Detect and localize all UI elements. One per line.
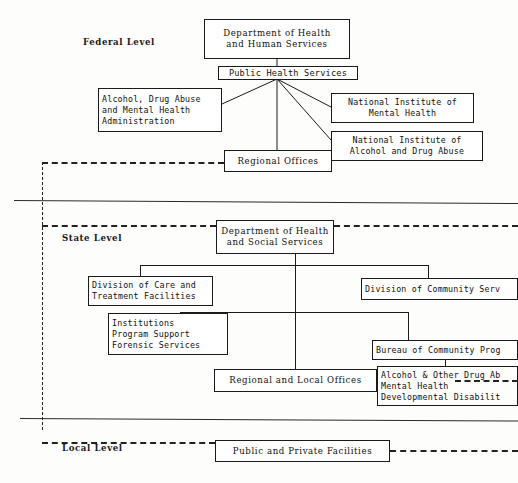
org-chart: Federal Level Department of Health and H… xyxy=(0,0,518,483)
node-public-private-line-1: Public and Private Facilities xyxy=(233,446,372,457)
level-label-federal: Federal Level xyxy=(83,37,155,47)
node-institutions-line-1: Institutions xyxy=(112,318,174,329)
local-dashed-line-right xyxy=(390,450,518,452)
node-adamha[interactable]: Alcohol, Drug Abuse and Mental Health Ad… xyxy=(98,88,222,132)
node-dhhs-line-1: Department of Health xyxy=(223,28,331,39)
left-spine-dashed-line xyxy=(42,162,43,430)
node-bureau-community-programs[interactable]: Bureau of Community Prog xyxy=(372,340,518,360)
node-dhss-line-1: Department of Health xyxy=(221,226,329,237)
node-institutions-line-3: Forensic Services xyxy=(112,340,200,351)
state-local-divider xyxy=(20,418,518,422)
node-programs-line-2: Mental Health xyxy=(381,381,449,392)
node-public-health-services[interactable]: Public Health Services xyxy=(218,66,358,80)
node-institutions-line-2: Program Support xyxy=(112,329,190,340)
node-institutions[interactable]: Institutions Program Support Forensic Se… xyxy=(108,313,228,355)
node-phs-line-1: Public Health Services xyxy=(229,68,347,79)
federal-state-divider xyxy=(14,200,518,204)
node-programs-line-1: Alcohol & Other Drug Ab xyxy=(381,370,501,381)
node-dhss-line-2: and Social Services xyxy=(227,237,324,248)
federal-regional-dashed-line xyxy=(42,162,224,164)
level-label-local: Local Level xyxy=(62,443,123,453)
edge-branch-bureau xyxy=(408,312,409,340)
node-niada-line-2: Alcohol and Drug Abuse xyxy=(350,146,464,157)
node-programs[interactable]: Alcohol & Other Drug Ab Mental Health De… xyxy=(377,366,518,406)
state-dashed-line-left xyxy=(42,225,216,227)
node-nimh-line-1: National Institute of xyxy=(348,97,457,108)
node-bureau-line-1: Bureau of Community Prog xyxy=(376,345,501,356)
node-nimh-line-2: Mental Health xyxy=(369,108,437,119)
node-regional-local-offices[interactable]: Regional and Local Offices xyxy=(214,369,377,392)
edge-branch-div-community xyxy=(428,265,429,278)
node-division-care-line-2: Treatment Facilities xyxy=(92,291,196,302)
edge-phs-nimh xyxy=(277,79,331,107)
node-adamha-line-3: Administration xyxy=(102,116,175,127)
node-public-private-facilities[interactable]: Public and Private Facilities xyxy=(215,440,390,462)
node-nimh[interactable]: National Institute of Mental Health xyxy=(331,93,474,123)
node-division-care[interactable]: Division of Care and Treatment Facilitie… xyxy=(88,276,213,306)
node-regional-offices[interactable]: Regional Offices xyxy=(224,150,332,172)
node-niada[interactable]: National Institute of Alcohol and Drug A… xyxy=(331,131,483,161)
node-division-community-services[interactable]: Division of Community Serv xyxy=(361,278,518,300)
edge-branch-div-care xyxy=(140,265,141,276)
node-programs-line-3: Developmental Disabilit xyxy=(381,392,501,403)
node-adamha-line-2: and Mental Health xyxy=(102,105,190,116)
level-label-state: State Level xyxy=(62,233,122,243)
edge-division-branch-bar xyxy=(140,265,428,266)
node-niada-line-1: National Institute of xyxy=(352,135,461,146)
node-division-community-line-1: Division of Community Serv xyxy=(365,284,500,295)
node-division-care-line-1: Division of Care and xyxy=(92,280,196,291)
edge-phs-niada xyxy=(277,79,331,140)
node-dhhs-line-2: and Human Services xyxy=(226,39,327,50)
node-regional-offices-line-1: Regional Offices xyxy=(237,156,318,167)
node-dhss[interactable]: Department of Health and Social Services xyxy=(216,220,334,254)
node-regional-local-line-1: Regional and Local Offices xyxy=(229,375,361,386)
node-adamha-line-1: Alcohol, Drug Abuse xyxy=(102,94,201,105)
node-dhhs[interactable]: Department of Health and Human Services xyxy=(204,19,350,59)
edge-phs-adamha xyxy=(222,79,277,104)
state-dashed-line-right xyxy=(334,225,518,227)
